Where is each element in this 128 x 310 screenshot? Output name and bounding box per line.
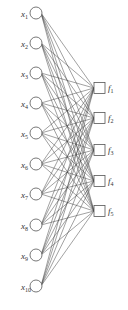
output-label: f4	[108, 176, 114, 187]
input-label: x10	[20, 282, 31, 293]
input-layer: x1x2x3x4x5x6x7x8x9x10	[20, 7, 42, 293]
input-node-x8: x8	[20, 219, 42, 232]
input-label: x1	[20, 9, 28, 20]
edge	[41, 118, 94, 286]
input-label: x8	[20, 221, 28, 232]
output-label: f3	[108, 145, 114, 156]
edge	[41, 150, 94, 286]
input-node-x2: x2	[20, 37, 42, 50]
input-node-x9: x9	[20, 249, 42, 262]
input-label: x6	[20, 160, 28, 171]
edge	[41, 88, 94, 103]
input-label: x4	[20, 99, 28, 110]
edge	[41, 88, 94, 194]
edge	[41, 73, 94, 88]
network-diagram: x1x2x3x4x5x6x7x8x9x10 f1f2f3f4f5	[0, 0, 128, 310]
edge	[41, 88, 94, 255]
output-node-f1: f1	[94, 83, 114, 95]
output-node-f5: f5	[94, 206, 114, 218]
output-node-f3: f3	[94, 145, 114, 157]
edge	[41, 13, 94, 88]
edge	[41, 118, 94, 133]
connections	[41, 13, 94, 286]
output-node-f2: f2	[94, 113, 114, 125]
output-label: f2	[108, 113, 114, 124]
input-node-x10: x10	[20, 280, 42, 293]
input-label: x9	[20, 251, 28, 262]
output-label: f5	[108, 206, 114, 217]
input-node-x5: x5	[20, 127, 42, 140]
input-node-x4: x4	[20, 97, 42, 110]
edge	[41, 103, 94, 181]
input-label: x5	[20, 129, 28, 140]
input-node-x1: x1	[20, 7, 42, 20]
edge	[41, 73, 94, 181]
input-label: x7	[20, 190, 28, 201]
output-layer: f1f2f3f4f5	[94, 83, 114, 218]
input-node-x6: x6	[20, 158, 42, 171]
edge	[41, 43, 94, 181]
output-label: f1	[108, 83, 114, 94]
input-label: x3	[20, 69, 28, 80]
input-node-x3: x3	[20, 67, 42, 80]
edge	[41, 88, 94, 286]
input-label: x2	[20, 39, 28, 50]
output-node-f4: f4	[94, 176, 114, 188]
input-node-x7: x7	[20, 188, 42, 201]
